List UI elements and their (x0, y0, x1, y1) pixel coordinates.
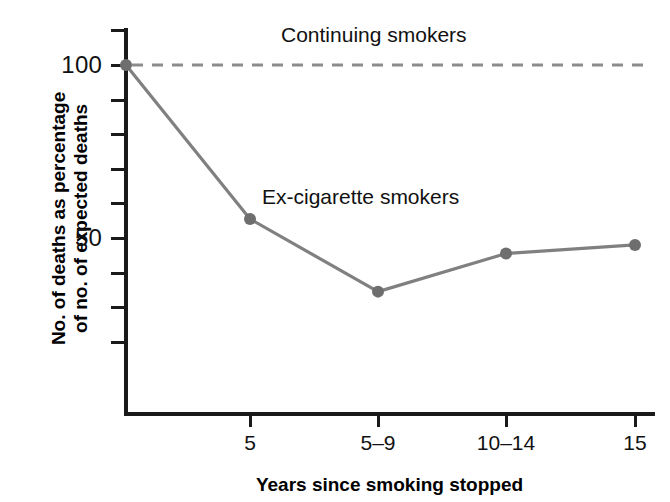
plot-area (0, 0, 670, 502)
annotation-continuing-smokers: Continuing smokers (281, 24, 467, 45)
ex-smokers-line (126, 65, 635, 292)
data-point-marker (372, 286, 384, 298)
data-point-marker (244, 213, 256, 225)
chart-figure: No. of deaths as percentage of no. of ex… (0, 0, 670, 502)
series-ex-cigarette-smokers (126, 65, 635, 292)
x-axis-title: Years since smoking stopped (124, 474, 655, 496)
data-point-markers (120, 59, 641, 298)
annotation-ex-cigarette-smokers: Ex-cigarette smokers (262, 186, 459, 207)
data-point-marker (120, 59, 132, 71)
data-point-marker (629, 239, 641, 251)
data-point-marker (500, 248, 512, 260)
